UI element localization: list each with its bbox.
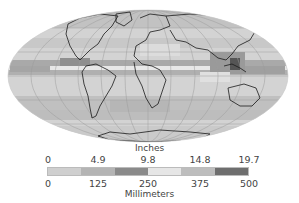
inches-tick: 19.7 <box>238 154 259 165</box>
color-segment <box>148 168 181 175</box>
color-scale-bar <box>47 167 249 176</box>
inches-tick: 4.9 <box>90 154 105 165</box>
mm-tick: 125 <box>89 178 107 189</box>
mm-tick: 500 <box>240 178 258 189</box>
mm-tick: 0 <box>45 178 51 189</box>
mm-tick: 375 <box>191 178 209 189</box>
world-precipitation-map <box>0 0 299 146</box>
color-segment <box>81 168 114 175</box>
map-fill <box>0 0 299 146</box>
legend-title-inches: Inches <box>0 143 299 153</box>
inches-tick: 9.8 <box>140 154 155 165</box>
inches-tick: 0 <box>45 154 51 165</box>
color-segment <box>181 168 214 175</box>
color-segment <box>115 168 148 175</box>
color-segment <box>48 168 81 175</box>
color-segment <box>215 168 248 175</box>
legend-title-millimeters: Millimeters <box>0 189 299 199</box>
inches-tick: 14.8 <box>189 154 210 165</box>
mm-tick: 250 <box>139 178 157 189</box>
